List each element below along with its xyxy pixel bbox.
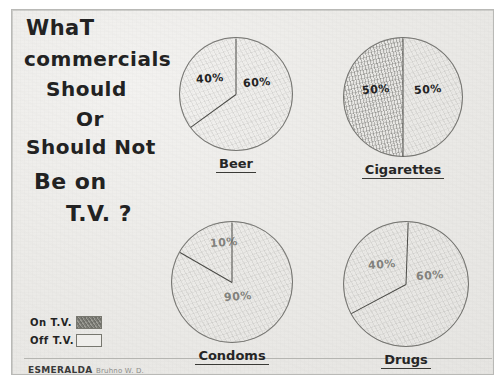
pie-chart-drugs: 40% 60% Drugs	[344, 222, 468, 346]
pie-value-beer-right: 60%	[243, 75, 272, 90]
pie-chart-beer: 40% 60% Beer	[180, 38, 292, 150]
legend-item-off-tv: Off T.V.	[30, 334, 160, 347]
pie-caption-drugs-text: Drugs	[381, 352, 431, 369]
pie-value-cigarettes-left: 50%	[362, 82, 391, 97]
slice-divider-beer-1	[236, 39, 237, 95]
legend-swatch-shaded-icon	[76, 316, 102, 329]
slice-divider-cigarettes-2	[403, 98, 404, 157]
slice-divider-drugs-1	[406, 223, 409, 285]
slice-divider-condoms-1	[232, 223, 233, 283]
slice-divider-cigarettes-1	[403, 39, 404, 98]
title-line-5: Should Not	[26, 137, 199, 157]
legend-label-off-tv: Off T.V.	[30, 335, 76, 346]
pie-value-drugs-left: 40%	[368, 257, 397, 272]
pie-caption-cigarettes: Cigarettes	[344, 162, 462, 179]
title-line-1: WhaT	[26, 18, 199, 39]
title-line-2: commercials	[24, 49, 199, 69]
legend-swatch-unshaded-icon	[76, 334, 102, 347]
pie-chart-cigarettes: 50% 50% Cigarettes	[344, 38, 462, 156]
pie-caption-cigarettes-text: Cigarettes	[362, 162, 444, 179]
pie-caption-beer-text: Beer	[216, 156, 256, 173]
pie-value-drugs-right: 60%	[416, 268, 445, 283]
pie-disc-condoms: 10% 90%	[172, 222, 292, 342]
title-line-3: Should	[46, 79, 199, 99]
pie-disc-drugs: 40% 60%	[344, 222, 468, 346]
pie-chart-condoms: 10% 90% Condoms	[172, 222, 292, 342]
chart-legend: On T.V. Off T.V.	[30, 316, 160, 352]
legend-label-on-tv: On T.V.	[30, 317, 76, 328]
signature: ESMERALDA Bruhno W. D.	[28, 365, 144, 375]
pie-value-condoms-large: 90%	[224, 289, 253, 304]
slice-divider-beer-2	[190, 94, 236, 128]
legend-item-on-tv: On T.V.	[30, 316, 160, 329]
slice-divider-drugs-2	[351, 284, 406, 314]
pie-caption-beer: Beer	[180, 156, 292, 173]
pie-caption-condoms: Condoms	[172, 348, 292, 365]
pie-caption-condoms-text: Condoms	[195, 348, 268, 365]
signature-name: ESMERALDA	[28, 365, 93, 375]
title-line-6: Be on	[34, 171, 199, 193]
page-title: WhaT commercials Should Or Should Not Be…	[24, 18, 199, 235]
pie-disc-beer: 40% 60%	[180, 38, 292, 150]
paper-sheet: WhaT commercials Should Or Should Not Be…	[11, 9, 494, 375]
pie-disc-cigarettes: 50% 50%	[344, 38, 462, 156]
poster-canvas: WhaT commercials Should Or Should Not Be…	[0, 0, 502, 383]
pie-caption-drugs: Drugs	[344, 352, 468, 369]
pie-value-cigarettes-right: 50%	[414, 82, 443, 97]
pie-value-condoms-small: 10%	[210, 235, 239, 250]
signature-secondary: Bruhno W. D.	[96, 367, 144, 375]
slice-divider-condoms-2	[180, 252, 232, 283]
pie-value-beer-left: 40%	[196, 71, 225, 86]
